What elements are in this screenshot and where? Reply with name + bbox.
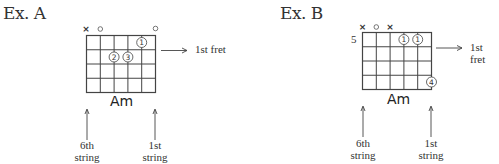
sixth-string-label-b: 6th string <box>343 137 383 161</box>
string-arrows-b <box>361 106 433 137</box>
svg-text:1: 1 <box>402 35 407 44</box>
fret-pointer-arrow-b <box>436 46 462 51</box>
open-string-icon <box>374 25 379 30</box>
first-string-label-b: 1st string <box>411 137 451 161</box>
label-line: 1st <box>411 137 451 149</box>
svg-text:1: 1 <box>415 35 420 44</box>
muted-string-icon: × <box>359 22 367 32</box>
fret-position-label-b: 5 <box>351 33 357 45</box>
open-muted-markers-b: × × <box>359 22 394 32</box>
svg-text:4: 4 <box>429 78 434 87</box>
muted-string-icon: × <box>386 22 394 32</box>
chord-name-b: Am <box>387 91 410 107</box>
first-fret-label-b: 1st fret <box>470 41 499 65</box>
label-line: string <box>411 149 451 161</box>
label-line: string <box>343 149 383 161</box>
label-line: 6th <box>343 137 383 149</box>
